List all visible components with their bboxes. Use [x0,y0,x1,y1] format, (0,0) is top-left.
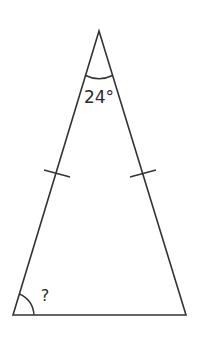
apex-angle-arc [86,76,113,79]
base-angle-label: ? [41,286,50,305]
triangle [13,31,186,315]
apex-angle-label: 24° [84,87,114,107]
triangle-diagram: 24° ? [0,0,202,353]
base-angle-arc [20,294,35,315]
